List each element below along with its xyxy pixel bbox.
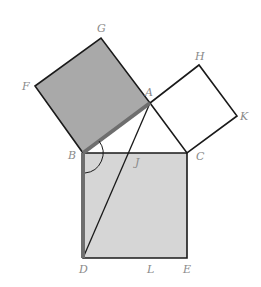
label-h: H <box>194 50 205 63</box>
label-c: C <box>196 150 205 163</box>
label-d: D <box>78 263 88 276</box>
label-l: L <box>146 263 154 276</box>
label-g: G <box>97 22 106 35</box>
label-e: E <box>182 263 191 276</box>
label-a: A <box>144 86 153 99</box>
pythagorean-windmill-diagram: G F A H K B C J D L E <box>0 0 261 287</box>
square-achk <box>150 65 237 153</box>
label-j: J <box>133 156 140 169</box>
label-f: F <box>21 80 30 93</box>
label-b: B <box>67 149 76 162</box>
square-abfg <box>35 38 150 153</box>
label-k: K <box>239 110 249 123</box>
